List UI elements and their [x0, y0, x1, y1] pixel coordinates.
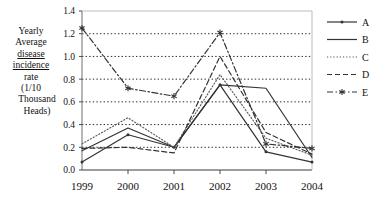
y-axis-title-line: Average [2, 37, 60, 48]
series-line-a [82, 85, 312, 162]
x-tick-label: 2002 [209, 180, 231, 192]
y-axis-title-line: (1/10 [2, 83, 60, 94]
y-tick-label: 0.6 [63, 97, 75, 107]
x-tick-label: 2001 [163, 180, 185, 192]
y-axis-ticks: 0.00.20.40.60.81.01.21.4 [63, 6, 82, 175]
chart-legend: ABCDE [327, 17, 370, 98]
y-tick-label: 1.2 [63, 29, 75, 39]
legend-label-a: A [362, 17, 370, 28]
y-tick-label: 0.0 [63, 165, 75, 175]
y-tick-label: 0.8 [63, 75, 75, 85]
y-tick-label: 1.0 [63, 52, 75, 62]
x-tick-label: 2000 [117, 180, 140, 192]
gridlines [82, 34, 312, 148]
x-axis-ticks: 199920002001200220032004 [71, 170, 324, 192]
y-axis-title-line: Heads) [2, 106, 60, 117]
series-marker-a [265, 150, 268, 153]
series-line-b [82, 85, 312, 158]
x-tick-label: 2004 [301, 180, 324, 192]
legend-label-b: B [362, 34, 369, 45]
y-axis-title-line: disease [2, 49, 60, 60]
legend-label-c: C [362, 52, 369, 63]
chart-container: Yearly Average disease incidence rate (1… [0, 0, 385, 204]
series-marker-a [311, 161, 314, 164]
legend-marker-a [341, 21, 344, 24]
series-marker-e [217, 29, 222, 35]
y-axis-title: Yearly Average disease incidence rate (1… [2, 26, 60, 117]
series-line-c [82, 75, 312, 156]
series-marker-a [127, 133, 130, 136]
plot-frame [82, 11, 312, 170]
x-tick-label: 1999 [71, 180, 94, 192]
y-tick-label: 0.2 [63, 143, 75, 153]
x-tick-label: 2003 [255, 180, 278, 192]
series-marker-a [81, 161, 84, 164]
y-axis-title-line: incidence [2, 60, 60, 71]
series-marker-e [263, 141, 268, 147]
legend-label-e: E [362, 87, 368, 98]
data-series-layer [79, 25, 314, 164]
series-line-e [82, 28, 312, 148]
legend-label-d: D [362, 69, 369, 80]
y-axis-title-line: Yearly [2, 26, 60, 37]
y-axis-title-line: rate [2, 72, 60, 83]
y-tick-label: 0.4 [63, 120, 75, 130]
y-axis-title-line: Thousand [2, 94, 60, 105]
y-tick-label: 1.4 [63, 6, 75, 16]
